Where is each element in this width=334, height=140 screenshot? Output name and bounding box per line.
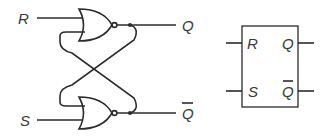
input-label-s: S bbox=[20, 112, 30, 129]
symbol-label-qbar: Q bbox=[282, 83, 294, 100]
input-label-r: R bbox=[18, 10, 29, 27]
nor-gate-top bbox=[79, 9, 117, 41]
inversion-bubble-top bbox=[112, 23, 117, 28]
output-label-q: Q bbox=[182, 17, 194, 34]
symbol-label-s: S bbox=[248, 83, 258, 100]
sr-latch-symbol: R S Q Q bbox=[226, 26, 314, 107]
sr-latch-diagram: R S Q Q R bbox=[0, 0, 334, 140]
symbol-label-q: Q bbox=[282, 35, 294, 52]
nor-gate-bottom bbox=[79, 97, 117, 129]
nor-latch-circuit: R S Q Q bbox=[18, 9, 194, 129]
inversion-bubble-bottom bbox=[112, 111, 117, 116]
symbol-label-r: R bbox=[247, 35, 258, 52]
output-label-qbar: Q bbox=[182, 105, 194, 122]
